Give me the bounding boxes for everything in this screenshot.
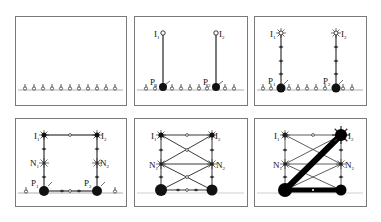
node-n2 [210, 162, 214, 166]
node-p1 [278, 183, 292, 197]
node-p2 [212, 83, 220, 91]
node-p1 [39, 186, 49, 196]
panel-3: I1 P1 I2 P2 [255, 17, 367, 106]
node-p1 [277, 84, 286, 93]
node-p2 [332, 84, 341, 93]
node-p2 [336, 185, 347, 196]
panel-4: I1 I2 N1 N2 P1 P2 [16, 119, 127, 207]
panel-2: I1 P1 I2 P2 [135, 17, 248, 106]
node-i1 [161, 31, 165, 35]
node-n1 [159, 162, 163, 166]
panel-6: I1 I2 N1 N2 [255, 119, 367, 207]
panel-1 [16, 17, 127, 106]
node-i1 [42, 133, 47, 138]
node-n1 [283, 162, 287, 166]
node-p2 [207, 185, 218, 196]
node-i2 [209, 132, 214, 137]
node-n2 [339, 162, 343, 166]
panel-5: I1 I2 N1 N2 [135, 119, 248, 207]
node-p1 [155, 184, 167, 196]
node-i1 [158, 132, 163, 137]
node-n1 [42, 161, 45, 164]
node-i2 [335, 129, 347, 141]
node-n2 [95, 161, 98, 164]
node-i1 [282, 132, 287, 137]
node-p2 [92, 186, 102, 196]
figure-canvas: I1 P1 I2 P2 I1 P1 I2 P2 [0, 0, 381, 222]
node-i2 [95, 133, 100, 138]
node-i2 [214, 31, 218, 35]
node-p1 [159, 83, 167, 91]
